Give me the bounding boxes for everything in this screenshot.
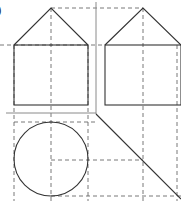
forty-five-degree-mitre-line	[96, 114, 181, 199]
solid-geometry-group	[14, 8, 181, 199]
orthographic-projection-figure: )	[0, 0, 181, 201]
figure-label: )	[0, 2, 1, 17]
figure-canvas: )	[0, 0, 181, 201]
